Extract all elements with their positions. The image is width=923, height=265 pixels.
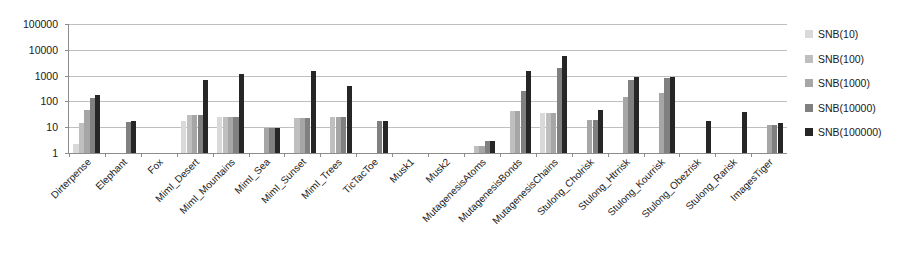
bar-group: [608, 24, 644, 153]
x-label-cell: Stulong_Cholrisk: [571, 155, 607, 265]
legend-item[interactable]: SNB(10000): [805, 96, 923, 121]
bar: [95, 95, 100, 153]
bar: [557, 68, 562, 153]
bar-group: [392, 24, 428, 153]
legend-item[interactable]: SNB(100): [805, 47, 923, 72]
bar: [540, 113, 545, 153]
legend-swatch-icon: [805, 128, 813, 136]
bar: [90, 98, 95, 153]
bar: [223, 117, 228, 154]
bar: [598, 110, 603, 153]
bar: [515, 111, 520, 153]
bar-group: [105, 24, 141, 153]
bar: [330, 117, 335, 153]
legend-item[interactable]: SNB(1000): [805, 71, 923, 96]
bar: [275, 128, 280, 153]
bar: [383, 121, 388, 153]
legend-swatch-icon: [805, 55, 813, 63]
bar: [521, 91, 526, 153]
legend-item[interactable]: SNB(100000): [805, 120, 923, 145]
x-label-cell: Stulong_Rarisk: [714, 155, 750, 265]
bar: [305, 118, 310, 153]
bar: [546, 113, 551, 153]
bar-group: [213, 24, 249, 153]
x-label-cell: ImagesTiger: [750, 155, 786, 265]
bar-group: [500, 24, 536, 153]
bar: [742, 112, 747, 153]
bar: [336, 117, 341, 153]
bar: [479, 146, 484, 153]
x-label-cell: Elephant: [104, 155, 140, 265]
bar: [181, 121, 186, 153]
bar: [311, 71, 316, 153]
legend-label: SNB(10): [818, 28, 858, 40]
bar: [264, 128, 269, 153]
x-label-cell: MimI_Sunset: [283, 155, 319, 265]
bar: [562, 56, 567, 153]
bar: [664, 78, 669, 153]
bar: [634, 77, 639, 153]
legend-label: SNB(10000): [818, 102, 876, 114]
bar: [706, 121, 711, 153]
bar: [623, 97, 628, 153]
x-label-cell: Fox: [140, 155, 176, 265]
bar-group: [536, 24, 572, 153]
x-axis-tick-label: Fox: [146, 157, 165, 176]
bar: [587, 120, 592, 153]
x-label-cell: Stulong_Obezrisk: [678, 155, 714, 265]
bar: [593, 120, 598, 153]
bar-group: [356, 24, 392, 153]
bar: [485, 141, 490, 153]
y-tick-label: 100000: [23, 19, 58, 30]
bar-group: [572, 24, 608, 153]
bar: [228, 117, 233, 154]
bar-groups: [69, 24, 787, 153]
bar: [192, 115, 197, 153]
bar: [778, 123, 783, 153]
bar: [233, 117, 238, 154]
bar-group: [249, 24, 285, 153]
bar-group: [715, 24, 751, 153]
bar-group: [320, 24, 356, 153]
x-label-cell: Musk1: [391, 155, 427, 265]
bar: [341, 117, 346, 153]
bar-group: [428, 24, 464, 153]
bar: [772, 125, 777, 153]
legend-label: SNB(100): [818, 53, 864, 65]
bar: [510, 111, 515, 153]
y-tick-label: 1: [52, 148, 58, 159]
legend-label: SNB(1000): [818, 77, 870, 89]
legend-label: SNB(100000): [818, 126, 882, 138]
bar-group: [284, 24, 320, 153]
bar-group: [177, 24, 213, 153]
plot-area: [68, 24, 787, 154]
bar: [79, 123, 84, 153]
legend-item[interactable]: SNB(10): [805, 22, 923, 47]
bar-group: [679, 24, 715, 153]
bar: [659, 93, 664, 153]
legend-swatch-icon: [805, 79, 813, 87]
bar-group: [141, 24, 177, 153]
bar: [84, 110, 89, 153]
bar: [203, 80, 208, 153]
x-axis-tick-label: Musk2: [424, 157, 452, 185]
legend-swatch-icon: [805, 104, 813, 112]
x-label-cell: Dirterpense: [68, 155, 104, 265]
bar: [300, 118, 305, 153]
y-tick-label: 10: [46, 122, 58, 133]
bar: [377, 121, 382, 153]
y-tick-label: 100: [40, 96, 58, 107]
x-label-cell: MimI_Sea: [248, 155, 284, 265]
bar-group: [751, 24, 787, 153]
bar: [198, 115, 203, 153]
chart-legend: SNB(10)SNB(100)SNB(1000)SNB(10000)SNB(10…: [805, 22, 923, 145]
y-axis: 100000100001000100101: [0, 0, 62, 165]
bar: [474, 146, 479, 153]
plot-wrapper: 100000100001000100101 DirterpenseElephan…: [0, 0, 800, 265]
bar-group: [464, 24, 500, 153]
bar: [628, 80, 633, 153]
bar: [767, 125, 772, 153]
bar: [217, 117, 222, 154]
x-label-cell: MimI_Trees: [319, 155, 355, 265]
x-axis-tick-label: Musk1: [388, 157, 416, 185]
